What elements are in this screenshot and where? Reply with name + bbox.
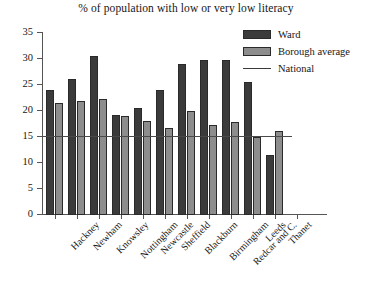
y-tick-0: 0 (37, 214, 43, 215)
bar-borough-average-nottingham (121, 116, 129, 215)
y-tick-label-10: 10 (23, 155, 34, 168)
legend-label-ward: Ward (278, 29, 300, 40)
bar-ward-sheffield (156, 90, 164, 215)
legend-item-national: National (243, 60, 371, 77)
legend-swatch-borough-icon (243, 47, 271, 56)
y-tick-label-20: 20 (23, 103, 34, 116)
legend-swatch-ward-icon (243, 30, 271, 39)
y-tick-20: 20 (37, 110, 43, 111)
y-tick-5: 5 (37, 188, 43, 189)
legend-label-national: National (278, 63, 314, 74)
legend-item-ward: Ward (243, 26, 371, 43)
chart-legend: Ward Borough average National (243, 26, 371, 77)
bar-borough-average-leeds (253, 137, 261, 215)
legend-item-borough-average: Borough average (243, 43, 371, 60)
bar-ward-newham (68, 79, 76, 215)
legend-line-national-icon (243, 64, 271, 73)
bar-borough-average-knowsley (99, 99, 107, 215)
y-tick-label-0: 0 (28, 207, 33, 220)
y-tick-label-15: 15 (23, 129, 34, 142)
bar-ward-newcastle (134, 108, 142, 215)
literacy-bar-chart: % of population with low or very low lit… (0, 0, 372, 283)
y-tick-35: 35 (37, 32, 43, 33)
y-tick-25: 25 (37, 84, 43, 85)
y-tick-10: 10 (37, 162, 43, 163)
bar-ward-blackburn (178, 64, 186, 215)
y-tick-label-35: 35 (23, 25, 34, 38)
bar-borough-average-hackney (55, 103, 63, 215)
bar-ward-nottingham (112, 115, 120, 215)
y-tick-label-25: 25 (23, 77, 34, 90)
y-tick-label-30: 30 (23, 51, 34, 64)
legend-label-borough-average: Borough average (278, 46, 350, 57)
national-reference-line (42, 136, 292, 137)
y-tick-30: 30 (37, 58, 43, 59)
bar-ward-hackney (46, 90, 54, 215)
chart-title: % of population with low or very low lit… (0, 2, 372, 14)
bar-borough-average-sheffield (165, 128, 173, 215)
y-tick-label-5: 5 (28, 181, 33, 194)
bar-ward-leeds (244, 82, 252, 215)
bar-borough-average-newham (77, 101, 85, 215)
bar-borough-average-blackburn (187, 111, 195, 215)
bar-borough-average-thanet (275, 131, 283, 215)
bar-borough-average-birmingham (209, 125, 217, 215)
x-tick-end (297, 214, 298, 219)
bar-ward-redcar-and-c- (222, 60, 230, 215)
bar-ward-thanet (266, 155, 274, 215)
bar-ward-birmingham (200, 60, 208, 215)
